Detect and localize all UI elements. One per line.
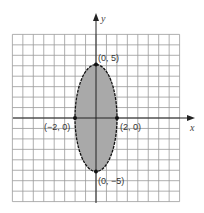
coordinate-plane: y x (0, 5) (0, −5) (−2, 0) (2, 0) xyxy=(0,0,204,213)
point-left xyxy=(73,116,77,120)
x-axis-label: x xyxy=(189,122,195,133)
point-right xyxy=(115,116,119,120)
label-bottom: (0, −5) xyxy=(98,176,124,186)
point-top xyxy=(94,63,98,67)
point-bottom xyxy=(94,170,98,174)
label-left: (−2, 0) xyxy=(44,122,70,132)
y-axis-arrow-icon xyxy=(93,13,99,21)
label-top: (0, 5) xyxy=(98,53,119,63)
label-right: (2, 0) xyxy=(120,122,141,132)
y-axis-label: y xyxy=(100,13,106,24)
x-axis-arrow-icon xyxy=(187,115,195,121)
